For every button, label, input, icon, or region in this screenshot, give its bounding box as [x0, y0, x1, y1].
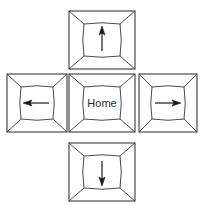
left-arrow-key-shape: [6, 73, 68, 133]
left-arrow-key[interactable]: [6, 73, 68, 133]
keypad-diagram: Home: [0, 0, 204, 211]
right-arrow-key[interactable]: [138, 73, 198, 133]
up-arrow-key-shape: [68, 10, 136, 70]
up-arrow-key[interactable]: [68, 10, 136, 70]
home-key-label: Home: [87, 97, 116, 109]
down-arrow-key[interactable]: [68, 142, 136, 202]
home-key-shape: Home: [68, 73, 136, 133]
home-key[interactable]: Home: [68, 73, 136, 133]
down-arrow-key-shape: [68, 142, 136, 202]
right-arrow-key-shape: [138, 73, 198, 133]
